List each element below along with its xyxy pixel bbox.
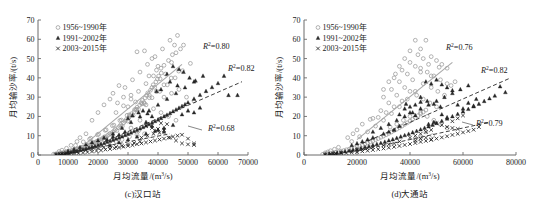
legend: 1956~1990年1991~2002年2003~2015年: [56, 22, 107, 53]
y-tick-label: 0: [297, 151, 301, 160]
x-tick-label: 60000: [208, 158, 228, 167]
r2-series1: R2=0.76: [445, 42, 473, 52]
fit-line-1: [357, 62, 452, 139]
cross-marker: [56, 47, 60, 51]
scatter-plot-d: 0102030405060700200004000060000800001956…: [268, 0, 535, 219]
chart-panel-c: 0102030405060700100002000030000400005000…: [0, 0, 267, 219]
circle-marker: [316, 26, 320, 30]
r2-series1: R2=0.80: [202, 41, 230, 51]
x-tick-label: 40000: [400, 158, 420, 167]
x-tick-label: 50000: [178, 158, 198, 167]
x-tick-label: 80000: [506, 158, 526, 167]
y-tick-label: 10: [27, 132, 35, 141]
panel-caption: (d)大通站: [392, 189, 429, 199]
y-tick-label: 30: [293, 93, 301, 102]
y-tick-label: 0: [31, 151, 35, 160]
legend-label: 1956~1990年: [63, 22, 107, 32]
circle-marker: [56, 26, 60, 30]
x-tick-label: 20000: [88, 158, 108, 167]
y-tick-label: 60: [27, 35, 35, 44]
x-axis-label: 月均流量/(m3/s): [113, 171, 172, 181]
y-tick-label: 40: [27, 74, 35, 83]
cross-marker: [316, 47, 320, 51]
x-tick-label: 40000: [148, 158, 168, 167]
r2-series3: R2=0.68: [188, 123, 235, 133]
legend-label: 2003~2015年: [323, 43, 367, 53]
y-tick-label: 70: [293, 16, 301, 25]
y-tick-label: 60: [293, 35, 301, 44]
y-axis-label: 月均输沙率/(t/s): [274, 57, 284, 118]
svg-text:R2=0.68: R2=0.68: [207, 123, 235, 133]
y-axis-ticks: 010203040506070: [27, 16, 42, 160]
x-tick-label: 70000: [238, 158, 258, 167]
x-axis-label: 月均流量/(m3/s): [380, 171, 439, 181]
r2-annotations: R2=0.80R2=0.82R2=0.68: [188, 41, 255, 133]
x-tick-label: 30000: [118, 158, 138, 167]
legend-label: 1991~2002年: [63, 33, 107, 43]
svg-text:R2=0.82: R2=0.82: [227, 63, 255, 73]
legend: 1956~1990年1991~2002年2003~2015年: [316, 22, 367, 53]
figure-container: 0102030405060700100002000030000400005000…: [0, 0, 535, 219]
legend-label: 1956~1990年: [323, 22, 367, 32]
x-tick-label: 0: [36, 158, 40, 167]
svg-text:R2=0.79: R2=0.79: [475, 118, 503, 128]
y-tick-label: 70: [27, 16, 35, 25]
svg-text:R2=0.82: R2=0.82: [480, 65, 508, 75]
y-tick-label: 20: [293, 112, 301, 121]
x-tick-label: 60000: [453, 158, 473, 167]
x-tick-label: 10000: [58, 158, 78, 167]
plot-area: [321, 38, 511, 156]
x-tick-label: 0: [302, 158, 306, 167]
r2-series2: R2=0.82: [227, 63, 255, 73]
x-tick-label: 20000: [347, 158, 367, 167]
y-axis-ticks: 010203040506070: [293, 16, 308, 160]
triangle-marker: [56, 36, 60, 40]
y-axis-label: 月均输沙率/(t/s): [8, 57, 18, 118]
y-tick-label: 20: [27, 112, 35, 121]
r2-series2: R2=0.82: [480, 65, 508, 75]
triangle-marker: [316, 36, 320, 40]
y-tick-label: 40: [293, 74, 301, 83]
y-tick-label: 10: [293, 132, 301, 141]
svg-text:R2=0.76: R2=0.76: [445, 42, 473, 52]
panel-caption: (c)汉口站: [125, 189, 161, 199]
legend-label: 1991~2002年: [323, 33, 367, 43]
r2-annotations: R2=0.76R2=0.82R2=0.79: [445, 42, 508, 128]
svg-text:R2=0.80: R2=0.80: [202, 41, 230, 51]
legend-label: 2003~2015年: [63, 43, 107, 53]
scatter-plot-c: 0102030405060700100002000030000400005000…: [0, 0, 267, 219]
chart-panel-d: 0102030405060700200004000060000800001956…: [268, 0, 535, 219]
y-tick-label: 50: [293, 55, 301, 64]
y-tick-label: 30: [27, 93, 35, 102]
y-tick-label: 50: [27, 55, 35, 64]
